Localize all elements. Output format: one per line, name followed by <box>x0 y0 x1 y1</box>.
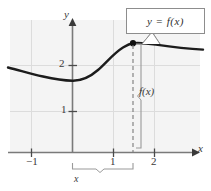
y-tick-label-2: 2 <box>59 58 65 69</box>
x-brace-label: x <box>74 174 78 184</box>
plot-background <box>10 20 200 152</box>
function-graph-figure: y = f(x) y x 2 1 −1 1 2 x f(x) <box>0 0 211 191</box>
function-callout-box: y = f(x) <box>126 8 205 34</box>
x-tick-label-2: 2 <box>151 156 157 167</box>
x-brace <box>73 163 134 173</box>
x-axis-label: x <box>198 143 203 154</box>
y-tick-label-1: 1 <box>61 104 67 115</box>
x-tick-label-minus-1: −1 <box>26 156 38 167</box>
x-tick-label-1: 1 <box>110 156 116 167</box>
y-axis-label: y <box>64 9 69 20</box>
callout-label: y = f(x) <box>147 15 184 27</box>
value-brace-label: f(x) <box>139 86 154 97</box>
